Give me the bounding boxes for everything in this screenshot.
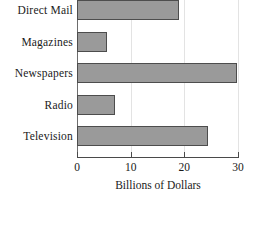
bar-row-direct-mail: [77, 0, 238, 20]
x-tick-label-0: 0: [57, 160, 97, 174]
bar-row-magazines: [77, 32, 238, 52]
bar-chart: Direct Mail Magazines Newspapers Radio T…: [0, 0, 259, 235]
bar-radio: [77, 95, 115, 115]
tick-mark-10: [131, 152, 132, 157]
tick-mark-30: [238, 152, 239, 157]
x-axis-line: [77, 157, 239, 158]
bar-newspapers: [77, 63, 237, 83]
bar-row-radio: [77, 95, 238, 115]
tick-mark-0: [77, 152, 78, 157]
x-tick-label-30: 30: [218, 160, 258, 174]
x-axis-title: Billions of Dollars: [77, 178, 239, 192]
x-tick-label-10: 10: [111, 160, 151, 174]
bar-television: [77, 126, 208, 146]
x-tick-label-20: 20: [164, 160, 204, 174]
bar-row-newspapers: [77, 63, 238, 83]
category-label-television: Television: [0, 126, 73, 146]
category-label-magazines: Magazines: [0, 32, 73, 52]
gridline-30: [238, 0, 239, 157]
category-label-newspapers: Newspapers: [0, 63, 73, 83]
category-label-radio: Radio: [0, 95, 73, 115]
tick-mark-20: [184, 152, 185, 157]
bar-direct-mail: [77, 0, 179, 20]
category-label-direct-mail: Direct Mail: [0, 0, 73, 20]
bar-row-television: [77, 126, 238, 146]
bar-magazines: [77, 32, 107, 52]
